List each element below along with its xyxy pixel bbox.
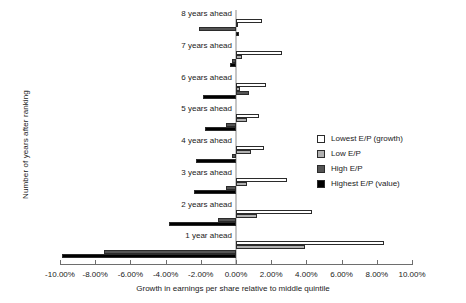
legend-swatch-icon	[317, 150, 325, 158]
chart-legend: Lowest E/P (growth)Low E/PHigh E/PHighes…	[317, 131, 403, 191]
bar	[236, 91, 249, 95]
x-axis-tick	[130, 260, 131, 265]
bar	[236, 83, 266, 87]
x-axis-tick-label: 10.00%	[398, 270, 425, 279]
bar	[199, 27, 236, 31]
category-label: 5 years ahead	[181, 104, 232, 114]
legend-item[interactable]: Lowest E/P (growth)	[317, 131, 403, 146]
bar	[236, 55, 242, 59]
bar	[205, 127, 236, 131]
x-axis-tick	[201, 260, 202, 265]
category-label: 7 years ahead	[181, 41, 232, 51]
bar	[62, 254, 236, 258]
category-label: 4 years ahead	[181, 136, 232, 146]
category-label: 1 year ahead	[185, 231, 232, 241]
bar-group: 8 years ahead	[60, 10, 412, 42]
bar	[236, 214, 257, 218]
category-label: 8 years ahead	[181, 9, 232, 19]
x-axis-tick-label: -4.00%	[153, 270, 178, 279]
bar	[230, 63, 236, 67]
y-axis-title: Number of years after ranking	[21, 50, 30, 240]
x-axis-tick-label: 6.00%	[330, 270, 353, 279]
bar	[169, 222, 236, 226]
x-axis-tick	[166, 260, 167, 265]
x-axis-tick-label: -8.00%	[83, 270, 108, 279]
x-axis-tick-label: 8.00%	[365, 270, 388, 279]
x-axis-tick	[412, 260, 413, 265]
bar-group: 6 years ahead	[60, 74, 412, 106]
bar-group: 7 years ahead	[60, 42, 412, 74]
x-axis-tick-label: -2.00%	[188, 270, 213, 279]
bar	[236, 51, 282, 55]
bar	[203, 95, 236, 99]
bar	[194, 190, 236, 194]
x-axis-tick-label: 4.00%	[295, 270, 318, 279]
x-axis-tick-label: 2.00%	[260, 270, 283, 279]
bar-group: 2 years ahead	[60, 201, 412, 233]
x-axis-tick	[342, 260, 343, 265]
bar	[236, 23, 238, 27]
x-axis-title: Growth in earnings per share relative to…	[0, 284, 466, 293]
bar	[236, 19, 262, 23]
category-label: 3 years ahead	[181, 168, 232, 178]
x-axis-tick-label: 0.00%	[225, 270, 248, 279]
bar	[236, 118, 247, 122]
bar	[236, 245, 305, 249]
x-axis-tick-label: -10.00%	[45, 270, 75, 279]
legend-swatch-icon	[317, 165, 325, 173]
chart-root: Number of years after ranking 8 years ah…	[0, 0, 466, 303]
legend-item[interactable]: High E/P	[317, 161, 403, 176]
category-label: 6 years ahead	[181, 73, 232, 83]
bar	[196, 159, 236, 163]
x-axis: -10.00%-8.00%-6.00%-4.00%-2.00%0.00%2.00…	[60, 264, 412, 265]
legend-swatch-icon	[317, 135, 325, 143]
x-axis-tick	[271, 260, 272, 265]
bar	[236, 150, 251, 154]
legend-swatch-icon	[317, 180, 325, 188]
legend-item[interactable]: Highest E/P (value)	[317, 176, 403, 191]
x-axis-tick	[60, 260, 61, 265]
legend-label: Highest E/P (value)	[331, 179, 400, 188]
legend-label: High E/P	[331, 164, 363, 173]
category-label: 2 years ahead	[181, 200, 232, 210]
x-axis-tick	[95, 260, 96, 265]
x-axis-tick	[236, 260, 237, 265]
legend-label: Lowest E/P (growth)	[331, 134, 403, 143]
x-axis-tick	[306, 260, 307, 265]
bar	[236, 32, 239, 36]
bar	[236, 182, 247, 186]
x-axis-tick-label: -6.00%	[118, 270, 143, 279]
legend-item[interactable]: Low E/P	[317, 146, 403, 161]
x-axis-tick	[377, 260, 378, 265]
legend-label: Low E/P	[331, 149, 361, 158]
